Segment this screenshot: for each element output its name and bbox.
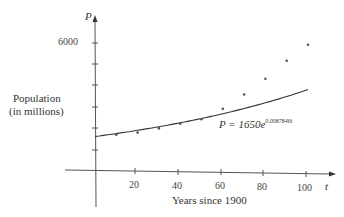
x-axis-label: Years since 1900	[172, 194, 247, 206]
x-axis	[65, 170, 330, 174]
x-tick-80: 80	[257, 181, 267, 192]
x-ticks	[135, 168, 306, 177]
data-point	[200, 118, 203, 121]
y-axis-label-line2: (in millions)	[9, 105, 64, 117]
data-point	[243, 93, 246, 96]
x-tick-60: 60	[215, 180, 225, 191]
y-tick-6000: 6000	[58, 36, 78, 47]
data-point	[264, 77, 267, 80]
data-point	[285, 59, 288, 62]
equation-exponent: 0.0087846t	[265, 118, 292, 124]
data-point	[115, 133, 118, 136]
equation-main: P = 1650e	[219, 118, 265, 130]
model-equation: P = 1650e0.0087846t	[219, 118, 293, 130]
y-axis-arrow-icon	[93, 15, 98, 22]
data-point	[307, 43, 310, 46]
x-tick-20: 20	[129, 179, 139, 190]
y-axis-label-line1: Population	[13, 92, 61, 104]
x-axis-symbol: t	[325, 180, 328, 192]
y-axis	[95, 20, 96, 207]
x-tick-40: 40	[172, 180, 182, 191]
data-point	[136, 131, 139, 134]
x-tick-100: 100	[297, 182, 312, 193]
x-axis-arrow-icon	[329, 172, 336, 177]
data-point	[179, 122, 182, 125]
data-point	[222, 108, 225, 111]
data-point	[158, 127, 161, 130]
y-axis-symbol: P	[85, 10, 92, 22]
